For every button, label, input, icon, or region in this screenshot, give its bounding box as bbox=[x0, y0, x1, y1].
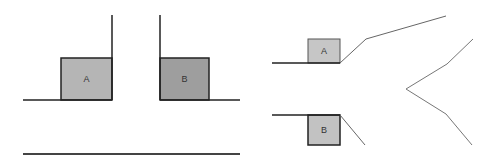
label-b-left: B bbox=[181, 74, 187, 84]
diagram-canvas: A B A B bbox=[0, 0, 492, 159]
left-figure: A B bbox=[23, 15, 240, 154]
right-figure: A B bbox=[272, 16, 473, 145]
label-b-right: B bbox=[321, 125, 327, 135]
lower-path bbox=[340, 115, 365, 145]
upper-path bbox=[340, 16, 446, 63]
label-a-left: A bbox=[83, 74, 89, 84]
label-a-right: A bbox=[321, 46, 327, 56]
zigzag-path bbox=[406, 39, 473, 145]
